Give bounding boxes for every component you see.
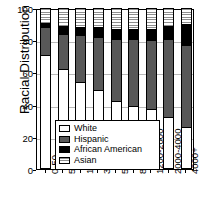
legend-item-label: Asian	[74, 156, 97, 165]
bar-segment-hispanic	[93, 37, 104, 90]
y-axis-tick-label: 20	[3, 132, 33, 143]
bar-segment-asian	[163, 8, 174, 26]
y-axis-tick-label: 60	[3, 68, 33, 79]
bar-segment-asian	[40, 8, 51, 22]
x-axis-tick-mark	[62, 170, 63, 173]
x-axis-tick-mark	[80, 170, 81, 173]
bar-segment-asian	[75, 8, 86, 27]
bar-segment-hispanic	[75, 35, 86, 82]
bar-segment-asian	[111, 8, 122, 29]
x-axis-tick-mark	[168, 170, 169, 173]
bar-segment-asian	[58, 8, 69, 26]
bar-segment-african-american	[75, 27, 86, 35]
legend-item-asian: Asian	[59, 155, 156, 165]
legend-item-label: White	[74, 124, 97, 133]
bar-segment-african-american	[111, 29, 122, 39]
legend-item-label: African American	[74, 145, 142, 154]
x-axis-tick-mark	[150, 170, 151, 173]
racial-distribution-chart: Racial Distribution 020406080100 0-5050-…	[0, 0, 201, 222]
y-axis-tick-label: 0	[3, 165, 33, 176]
x-axis-tick-label: 2000-4000	[172, 129, 183, 174]
bar-segment-hispanic	[128, 39, 139, 107]
legend-item-hispanic: Hispanic	[59, 134, 156, 144]
bar-segment-asian	[93, 8, 104, 27]
bar-segment-hispanic	[111, 39, 122, 102]
legend-swatch-icon	[59, 136, 70, 143]
bar-segment-african-american	[181, 24, 192, 45]
y-axis-tick-label: 40	[3, 100, 33, 111]
bar-segment-african-american	[58, 26, 69, 34]
bar-segment-asian	[181, 8, 192, 24]
bar-segment-hispanic	[181, 45, 192, 127]
bar-segment-hispanic	[40, 27, 51, 54]
bar-segment-african-american	[163, 26, 174, 39]
y-axis-tick-label: 80	[3, 36, 33, 47]
bar-segment-white	[40, 55, 51, 169]
bar-segment-african-american	[40, 23, 51, 28]
x-axis-tick-mark	[115, 170, 116, 173]
x-axis-tick-mark	[97, 170, 98, 173]
y-axis-tick-label: 100	[3, 4, 33, 15]
bar-segment-hispanic	[163, 39, 174, 118]
x-axis-tick-mark	[133, 170, 134, 173]
chart-legend: WhiteHispanicAfrican AmericanAsian	[55, 120, 160, 170]
bar-segment-hispanic	[58, 34, 69, 69]
x-axis-tick-label: 4000+	[189, 147, 200, 174]
legend-swatch-icon	[59, 125, 70, 132]
bar-segment-african-american	[93, 27, 104, 37]
bar-segment-african-american	[128, 29, 139, 39]
y-axis-tick-mark	[33, 170, 36, 171]
bar-segment-asian	[146, 8, 157, 29]
legend-item-african-american: African American	[59, 145, 156, 155]
x-axis-tick-mark	[45, 170, 46, 173]
x-axis-tick-mark	[185, 170, 186, 173]
bar-segment-asian	[128, 8, 139, 29]
legend-item-white: White	[59, 124, 156, 134]
legend-swatch-icon	[59, 157, 70, 164]
bar-0-50	[40, 10, 51, 169]
legend-item-label: Hispanic	[74, 135, 109, 144]
legend-swatch-icon	[59, 146, 70, 153]
bar-segment-hispanic	[146, 40, 157, 109]
bar-segment-african-american	[146, 29, 157, 40]
